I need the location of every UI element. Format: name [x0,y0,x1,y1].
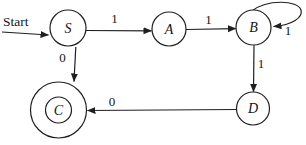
transition-label-B-D: 1 [258,56,265,71]
transition-D-C [88,110,237,111]
transition-B-D [254,45,255,92]
transition-A-B [186,29,236,30]
transition-label-A-B: 1 [205,12,212,27]
state-label-S: S [65,21,72,36]
transition-label-S-C: 0 [59,50,66,65]
state-label-B: B [249,20,258,35]
transition-S-C [74,47,76,82]
transition-label-D-C: 0 [109,94,116,109]
automaton-diagram: Start S A B C D 1 1 1 1 0 0 [0,0,306,145]
transition-label-B-B-self-loop: 1 [285,23,292,38]
start-arrow [2,32,49,35]
state-label-A: A [164,22,174,37]
transition-label-S-A: 1 [111,11,118,26]
start-label: Start [3,14,29,29]
state-label-C: C [54,103,64,118]
state-label-D: D [247,101,258,116]
